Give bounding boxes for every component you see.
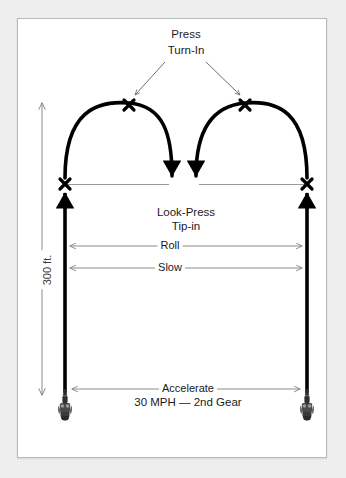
- label-slow: Slow: [155, 261, 185, 273]
- label-tip-in: Tip-in: [134, 220, 238, 232]
- label-turn-in: Turn-In: [148, 44, 224, 56]
- motorcycle-icon-left: [58, 389, 72, 421]
- label-distance: 300 ft.: [39, 251, 55, 290]
- label-speed-gear: 30 MPH — 2nd Gear: [112, 396, 264, 408]
- label-roll: Roll: [158, 239, 183, 251]
- left-arch-path: [65, 103, 172, 178]
- motorcycle-icon-right: [300, 389, 314, 421]
- callout-leader-right: [206, 62, 240, 95]
- label-look-press: Look-Press: [134, 206, 238, 218]
- label-accelerate: Accelerate: [159, 382, 217, 394]
- label-press: Press: [148, 28, 224, 40]
- callout-leader-left: [135, 62, 165, 95]
- right-arch-path: [196, 103, 307, 178]
